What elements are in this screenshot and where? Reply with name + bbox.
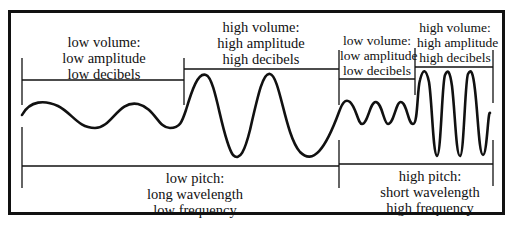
label-line: low amplitude	[340, 48, 414, 63]
label-low-volume-left: low volume: low amplitude low decibels	[48, 34, 160, 82]
label-line: high frequency	[370, 200, 490, 216]
label-line: low volume:	[340, 33, 414, 48]
label-low-volume-right: low volume: low amplitude low decibels	[340, 33, 414, 78]
label-line: high decibels	[205, 51, 317, 67]
label-line: high amplitude	[417, 35, 493, 50]
label-low-pitch: low pitch: long wavelength low frequency	[130, 170, 260, 218]
label-line: low volume:	[48, 34, 160, 50]
label-line: low decibels	[48, 66, 160, 82]
label-line: high volume:	[417, 20, 493, 35]
label-line: high amplitude	[205, 35, 317, 51]
label-line: high pitch:	[370, 168, 490, 184]
label-high-volume-right: high volume: high amplitude high decibel…	[417, 20, 493, 65]
label-line: short wavelength	[370, 184, 490, 200]
label-high-volume-left: high volume: high amplitude high decibel…	[205, 19, 317, 67]
label-line: high decibels	[417, 50, 493, 65]
label-line: low decibels	[340, 63, 414, 78]
sound-wave	[22, 71, 490, 157]
label-line: long wavelength	[130, 186, 260, 202]
label-line: low frequency	[130, 202, 260, 218]
label-line: low amplitude	[48, 50, 160, 66]
label-line: high volume:	[205, 19, 317, 35]
label-high-pitch: high pitch: short wavelength high freque…	[370, 168, 490, 216]
label-line: low pitch:	[130, 170, 260, 186]
